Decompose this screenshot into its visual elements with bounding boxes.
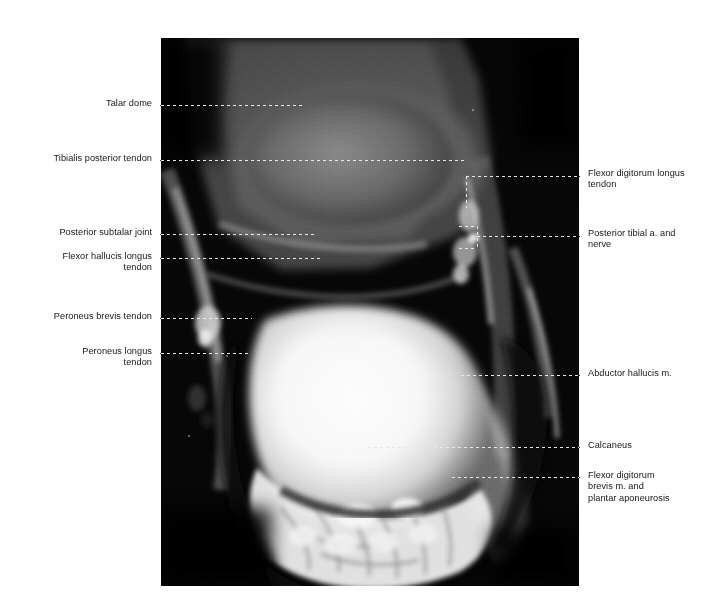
label-peroneus-longus-tendon: Peroneus longus tendon — [82, 346, 152, 369]
mri-image-plate — [161, 38, 579, 586]
leader-segment — [579, 375, 580, 376]
leader-segment — [579, 176, 580, 177]
leader-segment — [579, 477, 580, 478]
mri-anatomy-render — [161, 38, 579, 586]
annotated-mri-figure: Talar domeTibialis posterior tendonPoste… — [0, 0, 728, 616]
leader-segment — [579, 447, 580, 448]
label-flexor-hallucis-longus-tendon: Flexor hallucis longus tendon — [63, 251, 152, 274]
label-posterior-tibial-artery-and-nerve: Posterior tibial a. and nerve — [588, 228, 675, 251]
label-peroneus-brevis-tendon: Peroneus brevis tendon — [54, 311, 152, 322]
leader-segment — [579, 236, 580, 237]
label-calcaneus: Calcaneus — [588, 440, 632, 451]
label-flexor-digitorum-brevis-and-plantar-aponeurosis: Flexor digitorum brevis m. and plantar a… — [588, 470, 670, 504]
label-abductor-hallucis-m: Abductor hallucis m. — [588, 368, 672, 379]
label-talar-dome: Talar dome — [106, 98, 152, 109]
label-posterior-subtalar-joint: Posterior subtalar joint — [59, 227, 152, 238]
label-tibialis-posterior-tendon: Tibialis posterior tendon — [54, 153, 152, 164]
label-flexor-digitorum-longus-tendon: Flexor digitorum longus tendon — [588, 168, 685, 191]
